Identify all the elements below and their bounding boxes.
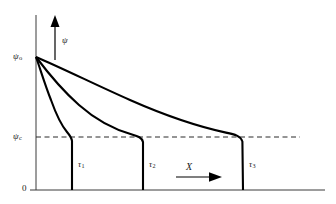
psi-o-label: ψo (13, 52, 22, 62)
curve-tau-1 (36, 57, 72, 190)
tau-2-label: τ2 (149, 160, 156, 169)
curve-tau-2 (36, 57, 143, 190)
psi-c-label: ψc (13, 132, 22, 142)
origin-label: 0 (22, 184, 27, 193)
tau-2-subscript: 2 (152, 163, 156, 169)
y-axis-label-text: ψ (62, 35, 68, 45)
y-axis-label: ψ (62, 36, 68, 45)
x-axis-label: X (186, 162, 192, 172)
figure-canvas (0, 0, 336, 204)
psi-c-symbol: ψ (13, 131, 19, 141)
x-axis-label-text: X (186, 161, 192, 172)
tau-3-subscript: 3 (252, 163, 256, 169)
psi-axis-arrow-icon (51, 15, 60, 60)
psi-c-subscript: c (19, 134, 22, 141)
psi-o-subscript: o (19, 54, 23, 61)
curve-tau-3 (36, 57, 243, 190)
figure-container: ψ ψo ψc τ1 τ2 τ3 X 0 (0, 0, 336, 204)
tau-1-subscript: 1 (81, 163, 85, 169)
tau-1-label: τ1 (78, 160, 85, 169)
x-axis-arrow-icon (176, 172, 222, 181)
psi-o-symbol: ψ (13, 51, 19, 61)
tau-3-label: τ3 (249, 160, 256, 169)
origin-label-text: 0 (22, 183, 27, 193)
